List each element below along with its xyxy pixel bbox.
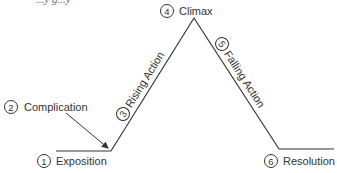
stage-label: Resolution: [283, 155, 335, 167]
stage-climax: 4 Climax: [161, 5, 214, 18]
stage-label: Rising Action: [123, 49, 167, 109]
stage-number: 4: [164, 6, 169, 17]
stage-label: Climax: [179, 5, 213, 17]
stage-resolution: 6 Resolution: [265, 155, 335, 168]
stage-number: 1: [41, 156, 46, 167]
stage-falling-action: 5 Falling Action: [213, 35, 268, 110]
stage-label: Falling Action: [222, 48, 268, 109]
stage-exposition: 1 Exposition: [38, 155, 107, 168]
stage-rising-action: 3 Rising Action: [114, 49, 167, 123]
cut-off-caption: ...y g...y: [36, 0, 71, 5]
stage-number: 6: [268, 156, 273, 167]
stage-complication: 2 Complication: [5, 101, 88, 114]
stage-label: Exposition: [56, 155, 107, 167]
plot-line: [56, 18, 334, 151]
stage-label: Complication: [24, 101, 88, 113]
stage-number: 2: [8, 102, 13, 113]
complication-arrow: [66, 113, 108, 148]
freytag-pyramid-diagram: ...y g...y 1 Exposition 2 Complication 3…: [0, 0, 337, 173]
